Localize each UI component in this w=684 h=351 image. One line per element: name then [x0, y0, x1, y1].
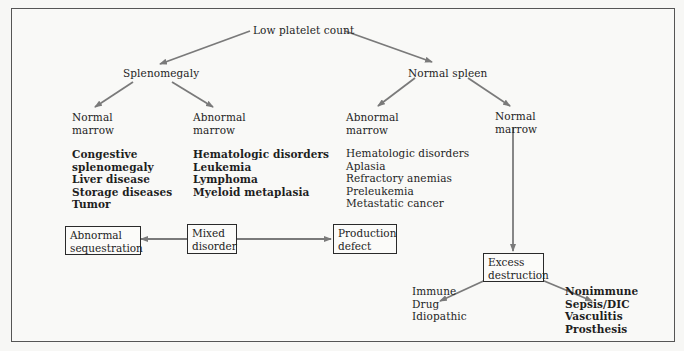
list-spleen-abnormal-marrow-causes: Hematologic disorders Aplasia Refractory…: [346, 147, 469, 210]
arrow-spleen-to-abnormal-marrow: [378, 78, 415, 106]
node-normal-spleen: Normal spleen: [408, 67, 487, 80]
arrow-root-to-splenomegaly: [160, 31, 250, 64]
list-nonimmune-causes: Nonimmune Sepsis/DIC Vasculitis Prosthes…: [565, 285, 638, 335]
box-production-defect: Production defect: [333, 224, 397, 254]
arrow-splen-to-abnormal-marrow: [172, 82, 213, 107]
arrow-splen-to-normal-marrow: [95, 82, 133, 107]
list-immune-causes: Immune Drug Idiopathic: [412, 285, 467, 323]
arrow-root-to-normal-spleen: [345, 31, 432, 62]
box-excess-destruction: Excess destruction: [483, 253, 544, 282]
node-spleen-normal-marrow-title: Normal marrow: [495, 110, 537, 135]
node-splen-normal-marrow-title: Normal marrow: [72, 111, 114, 136]
box-mixed-disorder: Mixed disorder: [187, 224, 237, 254]
node-spleen-abnormal-marrow-title: Abnormal marrow: [346, 111, 399, 136]
node-splenomegaly: Splenomegaly: [123, 67, 199, 80]
node-splen-abnormal-marrow-title: Abnormal marrow: [193, 111, 246, 136]
list-splen-abnormal-marrow-causes: Hematologic disorders Leukemia Lymphoma …: [193, 148, 329, 198]
arrow-spleen-to-normal-marrow: [468, 78, 510, 106]
root-node-low-platelet-count: Low platelet count: [253, 24, 354, 37]
list-splen-normal-marrow-causes: Congestive splenomegaly Liver disease St…: [72, 148, 172, 211]
box-abnormal-sequestration: Abnormal sequestration: [65, 226, 141, 255]
